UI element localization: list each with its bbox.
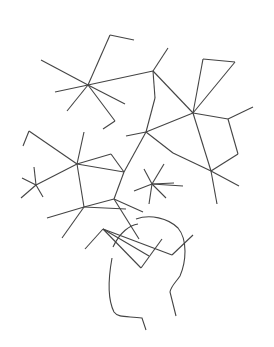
edge — [203, 59, 235, 62]
edge — [36, 164, 77, 185]
edge — [193, 113, 228, 119]
network-edges — [21, 35, 253, 268]
edge — [21, 185, 36, 198]
edge — [114, 172, 124, 199]
edge — [88, 85, 115, 121]
edge — [146, 113, 193, 132]
edge — [34, 167, 36, 185]
edge — [193, 62, 235, 113]
edge — [146, 98, 155, 132]
edge — [29, 131, 77, 164]
edge — [88, 71, 153, 85]
edge — [228, 119, 238, 154]
edge — [36, 185, 43, 197]
edge — [173, 153, 211, 171]
hand-stroke — [136, 217, 185, 316]
edge — [211, 171, 239, 186]
edge — [77, 132, 84, 164]
edge — [77, 154, 111, 164]
network-illustration — [0, 0, 274, 347]
edge — [103, 121, 115, 129]
edge — [47, 207, 84, 218]
edge — [124, 132, 146, 172]
edge — [22, 178, 36, 185]
edge — [193, 113, 211, 171]
edge — [41, 60, 88, 85]
edge — [23, 131, 29, 146]
edge — [85, 229, 103, 249]
edge — [152, 184, 166, 198]
edge — [211, 154, 238, 171]
edge — [153, 48, 168, 71]
edge — [126, 132, 146, 136]
edge — [62, 207, 84, 238]
hand-outline — [109, 217, 185, 330]
edge — [149, 184, 152, 204]
edge — [152, 184, 183, 186]
edge — [103, 229, 172, 255]
edge — [193, 59, 203, 113]
edge — [146, 132, 173, 153]
edge — [153, 71, 193, 113]
edge — [153, 71, 155, 98]
edge — [172, 235, 193, 255]
edge — [211, 171, 217, 204]
edge — [84, 199, 114, 207]
edge — [228, 107, 253, 119]
edge — [88, 85, 125, 104]
edge — [134, 184, 152, 191]
edge — [110, 35, 134, 40]
edge — [111, 154, 124, 172]
edge — [152, 164, 164, 184]
edge — [77, 164, 84, 207]
edge — [88, 35, 110, 85]
edge — [77, 164, 124, 172]
edge — [144, 169, 152, 184]
hand-stroke — [109, 258, 146, 330]
